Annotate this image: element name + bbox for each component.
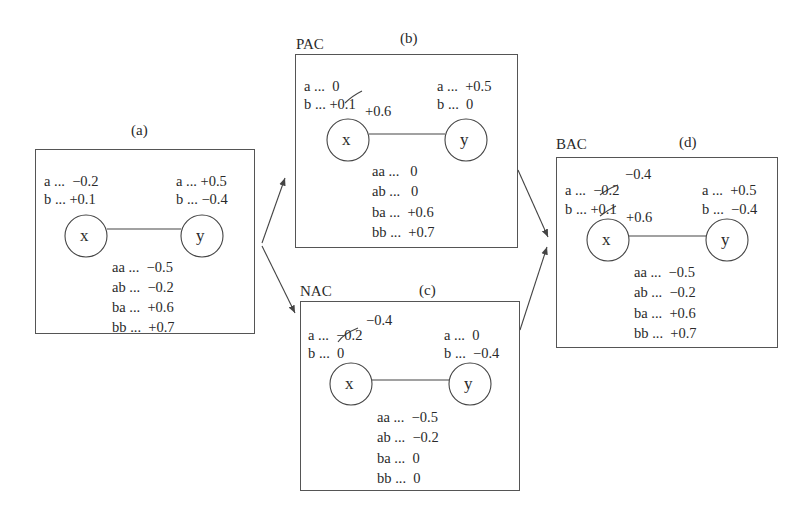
caption-b: (b): [400, 30, 418, 47]
edge-bb: bb ... +0.7: [634, 326, 697, 341]
label-pac: PAC: [296, 36, 324, 53]
x-domain-a: a ... −0.2: [44, 174, 99, 189]
edge-ab: ab ... −0.2: [377, 430, 439, 445]
x-domain-a: a ... 0: [304, 79, 339, 94]
y-domain-a: a ... +0.5: [702, 183, 757, 198]
arrow-c-to-d: [520, 247, 547, 330]
edge-aa: aa ... −0.5: [634, 265, 695, 280]
y-domain-a: a ... +0.5: [437, 79, 492, 94]
edge-bb: bb ... +0.7: [372, 225, 435, 240]
edge-ba: ba ... +0.6: [634, 306, 696, 321]
node-x: x: [80, 226, 89, 246]
node-y: y: [196, 226, 205, 246]
node-y: y: [464, 374, 473, 394]
arrow-b-to-d: [518, 170, 548, 237]
label-bac: BAC: [556, 136, 587, 153]
caption-d: (d): [679, 134, 697, 151]
edge-aa: aa ... −0.5: [377, 410, 438, 425]
edge-ba: ba ... 0: [377, 451, 420, 466]
edge-ab: ab ... 0: [372, 184, 418, 199]
node-x: x: [345, 374, 354, 394]
caption-c: (c): [419, 282, 436, 299]
edge-aa: aa ... 0: [372, 164, 418, 179]
x-domain-b: b ... +0.1: [304, 97, 356, 112]
node-y: y: [460, 130, 469, 150]
y-domain-b: b ... 0: [437, 97, 473, 112]
x-domain-a-new: −0.4: [625, 167, 651, 182]
edge-bb: bb ... +0.7: [112, 320, 175, 335]
y-domain-a: a ... +0.5: [176, 174, 227, 189]
node-x: x: [342, 130, 351, 150]
y-domain-b: b ... −0.4: [702, 202, 757, 217]
arrow-a-to-b: [262, 178, 285, 243]
edge-ba: ba ... +0.6: [112, 300, 174, 315]
x-domain-a-new: −0.4: [366, 313, 392, 328]
edge-ab: ab ... −0.2: [112, 280, 174, 295]
x-domain-b: b ... 0: [308, 346, 344, 361]
y-domain-a: a ... 0: [444, 328, 479, 343]
node-x: x: [602, 230, 611, 250]
caption-a: (a): [131, 122, 148, 139]
label-nac: NAC: [300, 283, 332, 300]
y-domain-b: b ... −0.4: [176, 192, 228, 207]
x-domain-b: b ... +0.1: [44, 192, 96, 207]
x-domain-b-new: +0.6: [365, 104, 391, 119]
edge-ab: ab ... −0.2: [634, 285, 696, 300]
edge-ba: ba ... +0.6: [372, 205, 434, 220]
y-domain-b: b ... −0.4: [444, 346, 499, 361]
x-domain-b: b ... +0.1: [565, 202, 617, 217]
edge-bb: bb ... 0: [377, 471, 421, 486]
x-domain-b-new: +0.6: [626, 210, 652, 225]
x-domain-a: a ... −0.2: [308, 328, 363, 343]
edge-aa: aa ... −0.5: [112, 260, 173, 275]
node-y: y: [721, 230, 730, 250]
x-domain-a: a ... −0.2: [565, 183, 620, 198]
arrow-a-to-c: [262, 246, 295, 313]
